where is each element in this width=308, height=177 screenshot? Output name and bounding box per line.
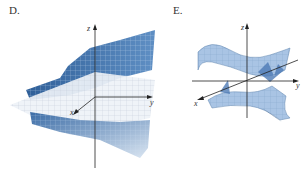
y-axis-label: y (295, 81, 300, 90)
surface-plot-e: z y x (150, 0, 308, 177)
panel-e: E. z y x (150, 0, 308, 177)
surface-plot-d: z y x (0, 0, 160, 177)
z-axis-label: z (86, 24, 91, 33)
x-axis-label: x (193, 99, 198, 108)
panel-d: D. z (0, 0, 160, 177)
x-axis-label: x (69, 108, 74, 117)
z-axis-label: z (240, 23, 245, 32)
